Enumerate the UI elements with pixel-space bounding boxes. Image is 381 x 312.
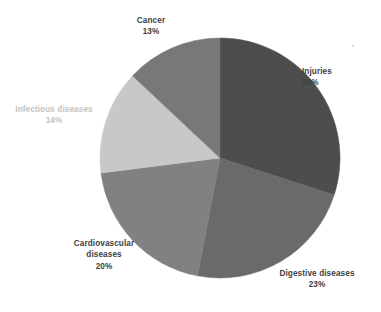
slice-label-cardiovascular-diseases-value: 20% [52,261,156,272]
slice-label-digestive-diseases-name: Digestive diseases [258,268,376,279]
image-speck [352,45,354,47]
pie-chart-page: Cancer 13% Injuries 30% Infectious disea… [0,0,381,312]
slice-label-cardiovascular-diseases: Cardiovascular diseases 20% [52,238,156,272]
slice-label-infectious-diseases: Infectious diseases 14% [2,104,106,127]
slice-label-cancer-name: Cancer [112,15,190,26]
slice-label-injuries-value: 30% [302,77,378,88]
slice-label-digestive-diseases: Digestive diseases 23% [258,268,376,291]
pie-chart: Cancer 13% Injuries 30% Infectious disea… [0,0,381,312]
slice-label-injuries: Injuries 30% [302,66,378,89]
slice-label-cardiovascular-diseases-name-line2: diseases [52,249,156,260]
slice-label-cancer: Cancer 13% [112,15,190,38]
slice-label-cardiovascular-diseases-name-line1: Cardiovascular [52,238,156,249]
slice-label-infectious-diseases-name: Infectious diseases [2,104,106,115]
slice-label-injuries-name: Injuries [302,66,378,77]
slice-label-cancer-value: 13% [112,26,190,37]
slice-label-infectious-diseases-value: 14% [2,115,106,126]
slice-label-digestive-diseases-value: 23% [258,279,376,290]
